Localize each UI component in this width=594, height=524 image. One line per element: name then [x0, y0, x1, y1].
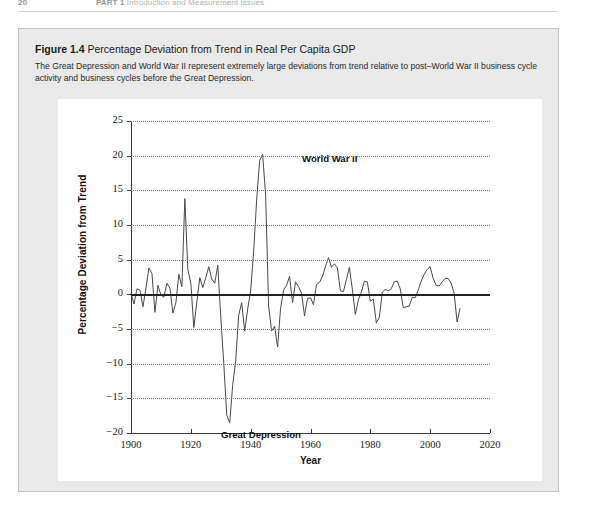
running-head-text: PART 1 Introduction and Measurement Issu…	[96, 0, 264, 7]
y-tick-mark	[127, 433, 131, 434]
y-tick-mark	[127, 398, 131, 399]
x-tick-label: 1900	[108, 439, 154, 450]
figure-caption: The Great Depression and World War II re…	[35, 61, 540, 84]
header-divider	[18, 11, 558, 12]
y-tick-mark	[127, 190, 131, 191]
plot-area: Percentage Deviation from Trend Year Wor…	[58, 99, 542, 481]
y-tick-label: −5	[83, 322, 123, 333]
y-tick-mark	[127, 156, 131, 157]
x-tick-mark	[191, 429, 192, 433]
zero-reference-line	[131, 294, 490, 296]
y-tick-label: −20	[83, 426, 123, 437]
y-tick-mark	[127, 364, 131, 365]
running-head-section: Introduction and Measurement Issues	[127, 0, 264, 7]
x-tick-label: 1940	[228, 439, 274, 450]
y-tick-label: −15	[83, 391, 123, 402]
x-tick-label: 1920	[168, 439, 214, 450]
figure-number: Figure 1.4	[35, 43, 85, 55]
gridline	[131, 260, 490, 261]
x-tick-mark	[131, 429, 132, 433]
running-head-part: PART 1	[96, 0, 124, 7]
y-tick-mark	[127, 225, 131, 226]
figure-panel: Figure 1.4 Percentage Deviation from Tre…	[18, 28, 559, 492]
gridline	[131, 329, 490, 330]
figure-title-text: Percentage Deviation from Trend in Real …	[88, 43, 356, 55]
y-tick-mark	[127, 121, 131, 122]
y-tick-label: 5	[83, 253, 123, 264]
annotation-world-war-ii: World War II	[302, 153, 357, 164]
x-tick-mark	[370, 429, 371, 433]
gridline	[131, 190, 490, 191]
x-tick-label: 1980	[347, 439, 393, 450]
y-tick-label: 25	[83, 114, 123, 125]
x-tick-mark	[311, 429, 312, 433]
chart-card: Percentage Deviation from Trend Year Wor…	[58, 99, 542, 481]
gridline	[131, 364, 490, 365]
y-tick-mark	[127, 294, 131, 295]
y-tick-label: 0	[83, 287, 123, 298]
y-tick-label: 20	[83, 149, 123, 160]
x-tick-mark	[490, 429, 491, 433]
gridline	[131, 225, 490, 226]
y-tick-label: 15	[83, 183, 123, 194]
series-polyline	[131, 154, 460, 422]
x-tick-label: 1960	[288, 439, 334, 450]
gridline	[131, 121, 490, 122]
gridline	[131, 156, 490, 157]
x-tick-label: 2020	[467, 439, 513, 450]
y-tick-mark	[127, 329, 131, 330]
y-tick-mark	[127, 260, 131, 261]
y-tick-label: 10	[83, 218, 123, 229]
gridline	[131, 398, 490, 399]
figure-title: Figure 1.4 Percentage Deviation from Tre…	[35, 43, 355, 55]
x-tick-label: 2000	[407, 439, 453, 450]
page-number: 20	[18, 0, 27, 7]
y-tick-label: −10	[83, 357, 123, 368]
x-tick-mark	[430, 429, 431, 433]
x-tick-mark	[251, 429, 252, 433]
